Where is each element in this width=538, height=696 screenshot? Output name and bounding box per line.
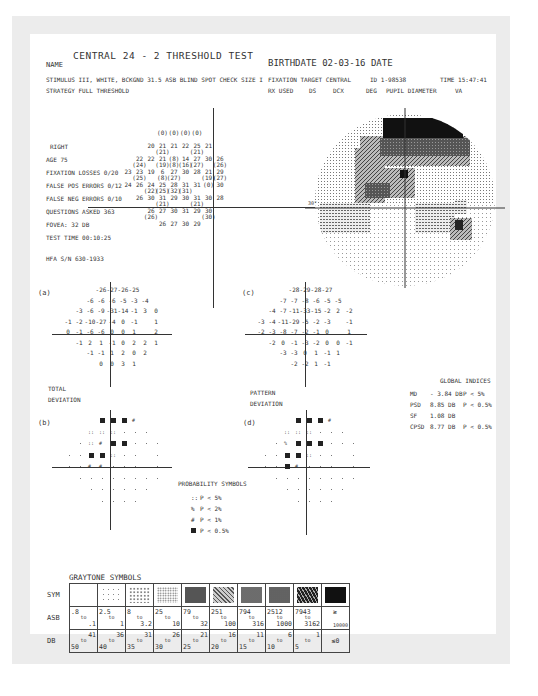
probability-symbol-icon: # [132,418,135,423]
probability-square-icon [89,453,94,458]
graytone-symbol-swatch [98,584,126,607]
probability-square-icon [318,418,323,423]
probability-dot-icon [309,489,310,490]
probability-symbol-icon: :: [88,430,94,435]
legend-symbol-icon: # [191,516,195,523]
global-index-name: PSD [410,401,421,408]
rx-used: RX USED [268,87,293,94]
graytone-asb-cell: ≥10000 [322,607,350,630]
graytone-symbol-swatch [154,584,182,607]
probability-dot-icon [342,478,343,479]
probability-square-icon [100,453,105,458]
probability-dot-icon [331,455,332,456]
deviation-value: -1 [341,319,357,325]
probability-dot-icon [146,432,147,433]
probability-dot-icon [320,478,321,479]
probability-dot-icon [331,432,332,433]
probability-dot-icon [80,443,81,444]
probability-square-icon [296,418,301,423]
threshold-value: 28 [212,195,228,201]
global-index-value: 8.85 DB [430,401,455,408]
probability-dot-icon [135,489,136,490]
probability-symbol-icon: :: [284,430,290,435]
probability-dot-icon [342,489,343,490]
patient-id: ID 1-98538 [370,76,406,83]
probability-dot-icon [80,466,81,467]
probability-dot-icon [353,455,354,456]
false-pos-errors: FALSE POS ERRORS 0/12 [46,182,122,189]
probability-dot-icon [157,455,158,456]
global-index-name: MD [410,390,417,397]
probability-dot-icon [320,466,321,467]
graytone-asb-cell: 79to32 [182,607,210,630]
graytone-table: SYMASB.8to.12.5to18to3.225to1079to32251t… [47,583,350,653]
global-index-value: 8.77 DB [430,423,455,430]
probability-dot-icon [69,466,70,467]
probability-square-icon [111,441,116,446]
pd-prob-horizontal-axis [248,467,370,468]
global-indices-title: GLOBAL INDICES [440,377,491,384]
probability-dot-icon [102,478,103,479]
deviation-value: 0 [148,308,164,314]
graytone-row-label: ASB [47,607,70,630]
probability-symbol-icon: # [88,464,91,469]
graytone-asb-cell: 794to316 [238,607,266,630]
graytone-asb-cell: 2512to1000 [266,607,294,630]
graytone-db-cell: 21to25 [182,630,210,653]
probability-dot-icon [353,443,354,444]
probability-dot-icon [331,443,332,444]
probability-dot-icon [320,432,321,433]
probability-dot-icon [276,478,277,479]
deviation-value: 1 [330,350,346,356]
probability-square-icon [122,418,127,423]
probability-dot-icon [157,443,158,444]
probability-dot-icon [124,489,125,490]
questions-asked: QUESTIONS ASKED 363 [46,208,115,215]
probability-dot-icon [331,489,332,490]
probability-symbol-icon: % [284,441,287,446]
rx-deg: DEG [366,87,377,94]
probability-dot-icon [135,432,136,433]
graytone-symbol-swatch [266,584,294,607]
probability-dot-icon [124,466,125,467]
graytone-db-cell: 41to50 [70,630,98,653]
label-b: (b) [38,420,51,427]
fixation-losses: FIXATION LOSSES 0/20 [46,169,118,176]
graytone-row-label: DB [47,630,70,653]
probability-dot-icon [146,478,147,479]
pupil-diameter: PUPIL DIAMETER [386,87,437,94]
threshold-value: 30(30) [201,208,217,220]
probability-square-icon [111,418,116,423]
probability-dot-icon [342,443,343,444]
probability-dot-icon [113,478,114,479]
graytone-symbol-swatch [210,584,238,607]
graytone-symbol-swatch [294,584,322,607]
probability-dot-icon [91,489,92,490]
deviation-value: -4 [137,298,153,304]
graytone-symbol-swatch [70,584,98,607]
legend-text: P < 0.5% [200,527,229,534]
deviation-value: -3 [319,319,335,325]
fixation-target: FIXATION TARGET CENTRAL [268,76,351,83]
graytone-db-cell: 26to30 [154,630,182,653]
pb-vertical-axis [110,410,111,530]
probability-symbol-icon: :: [88,441,94,446]
probability-dot-icon [331,501,332,502]
graytone-db-cell: 6to10 [266,630,294,653]
probability-dot-icon [135,455,136,456]
probability-dot-icon [276,455,277,456]
graytone-db-cell: ≤0 [322,630,350,653]
pb-horizontal-axis [52,467,172,468]
probability-dot-icon [320,501,321,502]
age: AGE 75 [46,156,68,163]
graytone-db-cell: 36to40 [98,630,126,653]
probability-dot-icon [298,478,299,479]
global-index-value: - 3.84 DB [430,390,463,397]
probability-dot-icon [124,501,125,502]
graytone-symbol-swatch [126,584,154,607]
label-d: (d) [243,420,256,427]
deviation-value: -25 [126,287,142,293]
probability-dot-icon [146,443,147,444]
global-index-name: SF [410,412,417,419]
probability-symbol-icon: :: [99,430,105,435]
